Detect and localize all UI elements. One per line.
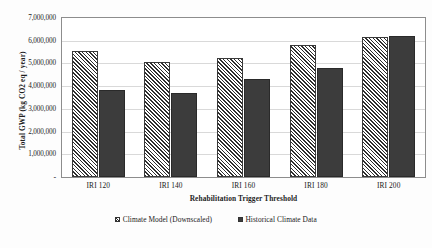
legend-item[interactable]: Historical Climate Data [238, 215, 317, 224]
x-tick-label: IRI 180 [304, 181, 328, 190]
y-axis-tick-labels: -1,000,0002,000,0003,000,0004,000,0005,0… [6, 14, 58, 178]
x-tick-label: IRI 200 [377, 181, 401, 190]
bar-group [290, 18, 343, 177]
legend-item[interactable]: Climate Model (Downscaled) [115, 215, 212, 224]
bars-layer [62, 18, 425, 177]
y-tick-label: 6,000,000 [28, 37, 56, 45]
bar-group [144, 18, 197, 177]
bar-climate-model [290, 45, 316, 177]
x-axis-tick-labels: IRI 120IRI 140IRI 160IRI 180IRI 200 [61, 181, 426, 195]
x-tick-label: IRI 120 [87, 181, 111, 190]
x-axis-title: Rehabilitation Trigger Threshold [61, 194, 426, 203]
solid-swatch-icon [238, 217, 243, 222]
y-tick-label: 3,000,000 [28, 105, 56, 113]
bar-climate-model [362, 37, 388, 177]
legend-item-label: Climate Model (Downscaled) [123, 215, 212, 224]
bar-historical [244, 79, 270, 177]
y-tick-label: 7,000,000 [28, 14, 56, 22]
bar-climate-model [144, 62, 170, 177]
bar-group [72, 18, 125, 177]
bar-historical [171, 93, 197, 177]
y-tick-label: 1,000,000 [28, 150, 56, 158]
bar-historical [317, 68, 343, 177]
plot-area [61, 17, 426, 178]
bar-historical [99, 90, 125, 177]
bar-climate-model [217, 58, 243, 177]
x-tick-label: IRI 160 [232, 181, 256, 190]
hatched-swatch-icon [115, 217, 120, 222]
bar-group [362, 18, 415, 177]
y-tick-label: 2,000,000 [28, 128, 56, 136]
y-tick-label: - [53, 173, 56, 182]
y-tick-label: 4,000,000 [28, 82, 56, 90]
y-tick-label: 5,000,000 [28, 59, 56, 67]
bar-historical [389, 36, 415, 177]
legend-item-label: Historical Climate Data [245, 215, 316, 224]
chart-legend: Climate Model (Downscaled)Historical Cli… [0, 215, 432, 224]
x-tick-label: IRI 140 [159, 181, 183, 190]
bar-climate-model [72, 51, 98, 177]
bar-chart-figure: Total GWP (kg CO2 eq / year) -1,000,0002… [0, 0, 432, 248]
bar-group [217, 18, 270, 177]
